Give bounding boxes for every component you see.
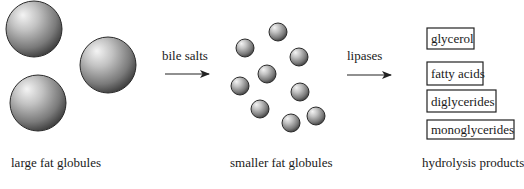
large-fat-globule	[10, 75, 66, 131]
lipases-label: lipases	[347, 48, 382, 63]
small-fat-globule	[290, 48, 308, 66]
product-label: glycerol	[431, 31, 474, 46]
product-box-diglycerides: diglycerides	[427, 90, 496, 112]
product-label: fatty acids	[431, 66, 485, 81]
small-fat-globule	[258, 65, 276, 83]
small-fat-globule	[231, 77, 249, 95]
small-globules-label: smaller fat globules	[230, 155, 333, 170]
small-fat-globule	[269, 23, 287, 41]
bile-salts-label: bile salts	[162, 48, 208, 63]
small-fat-globule	[236, 39, 254, 57]
product-label: diglycerides	[431, 94, 495, 109]
product-box-glycerol: glycerol	[427, 28, 474, 49]
products-label: hydrolysis products	[422, 155, 524, 170]
large-fat-globule	[6, 1, 62, 57]
lipases-arrow-group: lipases	[347, 48, 391, 75]
product-box-fatty-acids: fatty acids	[427, 62, 485, 85]
small-fat-globule	[291, 83, 309, 101]
large-fat-globule	[80, 37, 136, 93]
products-group: glycerol fatty acids diglycerides monogl…	[427, 28, 514, 139]
fat-digestion-diagram: large fat globules bile salts smaller fa…	[0, 0, 524, 189]
product-label: monoglycerides	[431, 122, 514, 137]
bile-salts-arrow-group: bile salts	[162, 48, 209, 74]
large-globules-group	[6, 1, 136, 131]
large-globules-label: large fat globules	[11, 155, 101, 170]
small-fat-globule	[282, 114, 300, 132]
product-box-monoglycerides: monoglycerides	[427, 120, 514, 139]
small-fat-globule	[251, 100, 269, 118]
small-fat-globule	[307, 107, 325, 125]
small-globules-group	[231, 23, 325, 132]
